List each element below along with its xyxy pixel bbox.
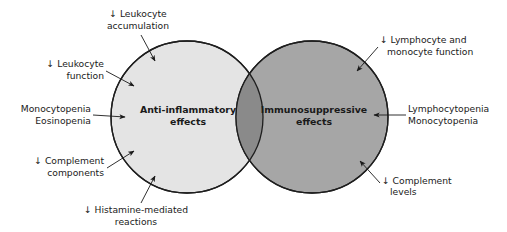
annotation-text: components xyxy=(47,167,104,178)
annotation-text: ↓ Leukocyte xyxy=(47,58,105,69)
immunosuppressive-label-line2: effects xyxy=(296,116,332,127)
annotation-text: ↓ Leukocyte xyxy=(109,8,167,19)
immunosuppressive-label: Immunosuppressive xyxy=(261,104,367,115)
annotation-text: Monocytopenia xyxy=(21,103,91,114)
anti-inflammatory-label: Anti-inflammatory xyxy=(140,104,236,115)
annotation-text: ↓ Complement xyxy=(382,175,452,186)
annotation-lymphocytopenia-monocytopenia: Lymphocytopenia Monocytopenia xyxy=(374,103,489,126)
annotation-text: Monocytopenia xyxy=(408,115,478,126)
annotation-text: ↓ Lymphocyte and xyxy=(380,34,467,45)
venn-diagram: Anti-inflammatory effects Immunosuppress… xyxy=(0,0,507,232)
annotation-text: Eosinopenia xyxy=(35,115,91,126)
annotation-complement-components: ↓ Complement components xyxy=(34,151,134,178)
annotation-text: accumulation xyxy=(107,20,169,31)
annotation-text: function xyxy=(66,70,104,81)
annotation-text: ↓ Complement xyxy=(34,155,104,166)
annotation-lymphocyte-monocyte-function: ↓ Lymphocyte and monocyte function xyxy=(357,34,473,71)
annotation-text: Lymphocytopenia xyxy=(408,103,489,114)
annotation-text: monocyte function xyxy=(387,46,473,57)
annotation-text: ↓ Histamine-mediated xyxy=(84,204,188,215)
annotation-text: reactions xyxy=(115,216,158,227)
anti-inflammatory-label-line2: effects xyxy=(170,116,206,127)
annotation-monocytopenia-eosinopenia: Monocytopenia Eosinopenia xyxy=(21,103,125,126)
annotation-text: levels xyxy=(390,186,417,197)
annotation-complement-levels: ↓ Complement levels xyxy=(360,161,452,197)
